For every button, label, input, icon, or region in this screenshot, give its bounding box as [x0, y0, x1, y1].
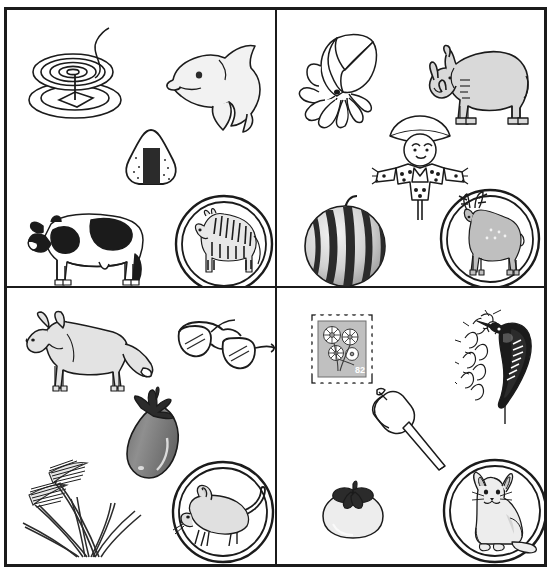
stamp-value-text: 82: [354, 365, 364, 375]
panel-bottom-right[interactable]: 82 Postage stamp: [275, 286, 547, 566]
figure-mouse-circled[interactable]: [169, 458, 277, 566]
figure-dolphin[interactable]: [159, 40, 271, 135]
panel-top-left[interactable]: Mosquito coil Dolphin: [5, 8, 277, 288]
panel-bottom-left[interactable]: Fox: [5, 286, 277, 566]
figure-deer-circled[interactable]: [437, 186, 543, 288]
figure-cow[interactable]: [21, 196, 151, 288]
figure-persimmon[interactable]: [317, 480, 389, 542]
figure-woodpecker[interactable]: [455, 308, 547, 426]
figure-eyeglasses[interactable]: [167, 314, 277, 376]
figure-watermelon[interactable]: [295, 190, 395, 288]
figure-pampas-grass[interactable]: [19, 453, 145, 558]
figure-mosquito-coil[interactable]: [23, 28, 133, 128]
figure-postage-stamp[interactable]: 82: [310, 313, 376, 385]
figure-cat-circled[interactable]: [440, 456, 547, 566]
figure-zebra-circled[interactable]: [172, 192, 276, 288]
panel-top-right[interactable]: Squid: [275, 8, 547, 288]
figure-onigiri[interactable]: [115, 122, 187, 194]
panel-grid: Mosquito coil Dolphin: [4, 7, 547, 567]
worksheet-sheet: Mosquito coil Dolphin: [0, 0, 555, 574]
